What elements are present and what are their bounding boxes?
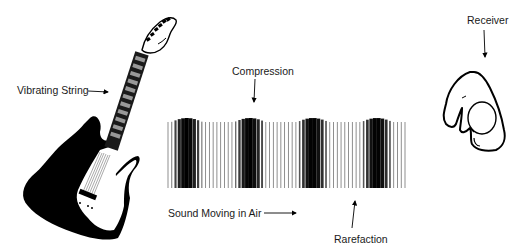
receiver-label: Receiver	[467, 14, 508, 26]
compression-label: Compression	[232, 65, 294, 77]
rarefaction-arrow	[352, 201, 355, 228]
vibrating-string-label: Vibrating String	[17, 84, 89, 96]
receiver-arrow	[484, 30, 485, 57]
vibrating-string-arrow	[88, 91, 108, 92]
rarefaction-label: Rarefaction	[334, 233, 388, 245]
compression-arrow	[254, 79, 255, 102]
sound-moving-label: Sound Moving in Air	[168, 207, 261, 219]
